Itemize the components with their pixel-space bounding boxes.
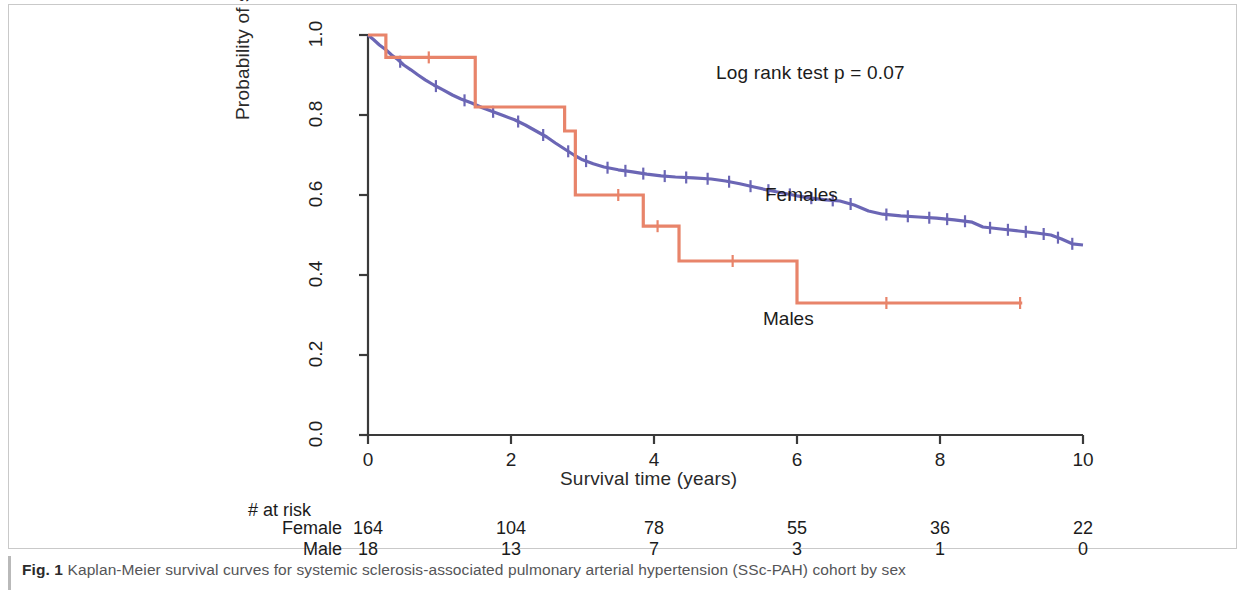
risk-value: 3 [772, 539, 822, 560]
risk-value: 104 [486, 518, 536, 539]
y-tick-label: 1.0 [305, 8, 327, 60]
figure-page: Probability of survival Survival time (y… [0, 0, 1245, 597]
y-tick-label: 0.2 [305, 328, 327, 380]
logrank-annotation: Log rank test p = 0.07 [716, 62, 905, 84]
y-tick-label: 0.6 [305, 168, 327, 220]
risk-value: 55 [772, 518, 822, 539]
risk-value: 0 [1058, 539, 1108, 560]
risk-row-label-female: Female [232, 518, 342, 539]
risk-value: 13 [486, 539, 536, 560]
risk-value: 7 [629, 539, 679, 560]
males-curve-label: Males [763, 308, 814, 330]
risk-row-label-male: Male [232, 539, 342, 560]
x-tick-label: 6 [777, 449, 817, 471]
y-axis-title: Probability of survival [232, 0, 254, 120]
risk-value: 1 [915, 539, 965, 560]
x-tick-label: 10 [1063, 449, 1103, 471]
figure-caption: Fig. 1 Kaplan-Meier survival curves for … [22, 560, 1202, 581]
females-curve-label: Females [765, 184, 838, 206]
risk-value: 36 [915, 518, 965, 539]
caption-rule [8, 556, 11, 590]
survival-curve-males [368, 35, 1022, 303]
kaplan-meier-plot [0, 0, 1245, 597]
risk-value: 18 [343, 539, 393, 560]
axes-layer [359, 35, 1083, 444]
x-axis-title: Survival time (years) [560, 468, 737, 490]
risk-value: 164 [343, 518, 393, 539]
x-tick-label: 2 [491, 449, 531, 471]
x-tick-label: 4 [634, 449, 674, 471]
x-tick-label: 0 [348, 449, 388, 471]
risk-value: 78 [629, 518, 679, 539]
y-tick-label: 0.4 [305, 248, 327, 300]
y-tick-label: 0.8 [305, 88, 327, 140]
risk-value: 22 [1058, 518, 1108, 539]
x-tick-label: 8 [920, 449, 960, 471]
y-tick-label: 0.0 [305, 408, 327, 460]
caption-text: Kaplan-Meier survival curves for systemi… [63, 561, 906, 578]
caption-prefix: Fig. 1 [22, 561, 63, 578]
